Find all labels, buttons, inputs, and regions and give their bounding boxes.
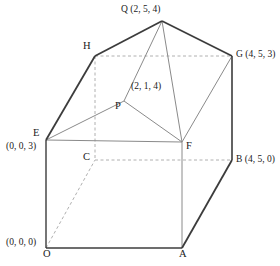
label-E-coords: (0, 0, 3) [6, 142, 36, 152]
label-H: H [83, 41, 91, 52]
edge-Q-G [162, 21, 232, 56]
label-O-coords: (0, 0, 0) [6, 238, 36, 248]
edge-E-F [46, 140, 182, 142]
label-E: E [33, 128, 39, 139]
label-A: A [179, 249, 187, 260]
label-P: P [115, 101, 121, 112]
edge-O-C-dashed [46, 160, 95, 248]
edge-F-G [182, 56, 232, 142]
label-P-coords: (2, 1, 4) [131, 82, 161, 92]
label-G: G (4, 5, 3) [236, 50, 275, 60]
edge-B-A [182, 160, 232, 248]
label-Q: Q (2, 5, 4) [121, 5, 160, 15]
figure-canvas [0, 0, 280, 266]
edge-Q-F [162, 21, 182, 142]
outline-edges-group [46, 21, 232, 248]
label-B: B (4, 5, 0) [236, 155, 275, 165]
edge-P-F [124, 101, 182, 142]
edge-H-Q [95, 21, 162, 56]
thin-edges-group [46, 21, 232, 248]
label-F: F [186, 141, 192, 152]
geometry-figure: Q (2, 5, 4) H G (4, 5, 3) (2, 1, 4) P E … [0, 0, 280, 266]
label-O: O [43, 249, 51, 260]
label-C: C [83, 152, 90, 163]
